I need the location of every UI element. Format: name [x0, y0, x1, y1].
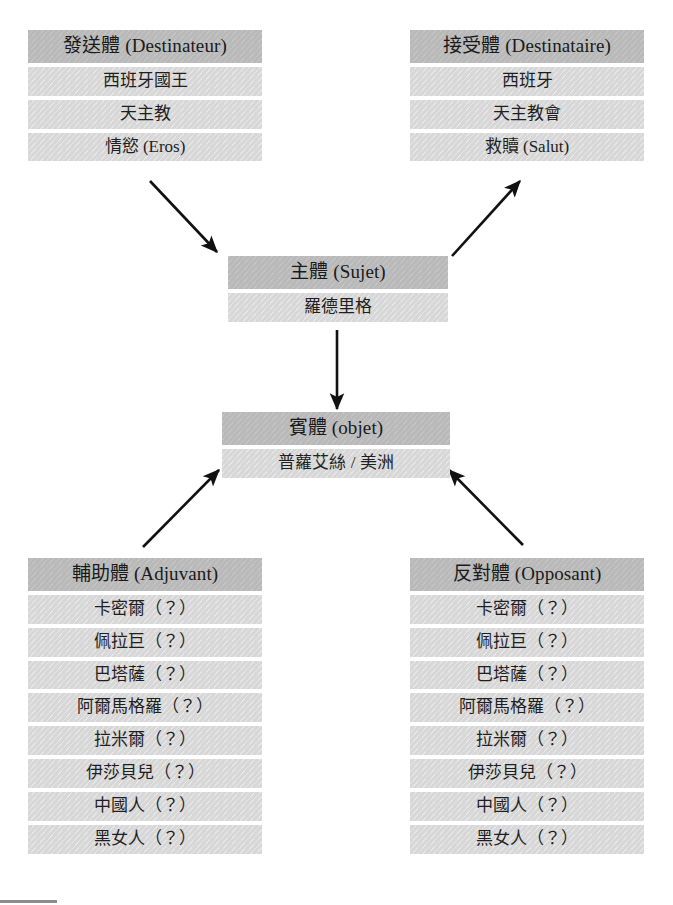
actantial-model-diagram: 發送體 (Destinateur) 西班牙國王 天主教 情慾 (Eros) 接受…: [0, 0, 673, 905]
actant-item: 佩拉巨（？）: [28, 628, 262, 657]
actant-item: 卡密爾（？）: [410, 595, 644, 624]
actant-box-sujet: 主體 (Sujet) 羅德里格: [228, 256, 448, 322]
footer-rule: [0, 900, 57, 903]
actant-box-destinataire: 接受體 (Destinataire) 西班牙 天主教會 救贖 (Salut): [410, 30, 644, 161]
actant-header-opposant: 反對體 (Opposant): [410, 558, 644, 591]
actant-item: 阿爾馬格羅（？）: [28, 693, 262, 722]
actant-item: 天主教: [28, 100, 262, 129]
actant-header-destinateur: 發送體 (Destinateur): [28, 30, 262, 63]
actant-item: 拉米爾（？）: [410, 726, 644, 755]
actant-box-objet: 賓體 (objet) 普蘿艾絲 / 美洲: [222, 412, 450, 478]
actant-header-destinataire: 接受體 (Destinataire): [410, 30, 644, 63]
actant-item: 普蘿艾絲 / 美洲: [222, 449, 450, 478]
actant-box-adjuvant: 輔助體 (Adjuvant) 卡密爾（？） 佩拉巨（？） 巴塔薩（？） 阿爾馬格…: [28, 558, 262, 854]
actant-item: 黑女人（？）: [28, 825, 262, 854]
actant-item: 阿爾馬格羅（？）: [410, 693, 644, 722]
actant-header-objet: 賓體 (objet): [222, 412, 450, 445]
actant-box-opposant: 反對體 (Opposant) 卡密爾（？） 佩拉巨（？） 巴塔薩（？） 阿爾馬格…: [410, 558, 644, 854]
actant-item: 伊莎貝兒（？）: [28, 759, 262, 788]
actant-item: 黑女人（？）: [410, 825, 644, 854]
arrow-opposant-to-objet: [449, 470, 523, 545]
actant-item: 卡密爾（？）: [28, 595, 262, 624]
arrow-destinateur-to-sujet: [150, 181, 217, 252]
actant-header-sujet: 主體 (Sujet): [228, 256, 448, 289]
actant-item: 羅德里格: [228, 293, 448, 322]
actant-item: 伊莎貝兒（？）: [410, 759, 644, 788]
actant-item: 巴塔薩（？）: [28, 661, 262, 690]
actant-header-adjuvant: 輔助體 (Adjuvant): [28, 558, 262, 591]
actant-item: 拉米爾（？）: [28, 726, 262, 755]
actant-item: 救贖 (Salut): [410, 133, 644, 162]
actant-item: 天主教會: [410, 100, 644, 129]
actant-item: 中國人（？）: [410, 792, 644, 821]
arrow-adjuvant-to-objet: [143, 470, 219, 547]
actant-item: 西班牙國王: [28, 67, 262, 96]
arrow-sujet-to-destinataire: [452, 181, 520, 256]
actant-box-destinateur: 發送體 (Destinateur) 西班牙國王 天主教 情慾 (Eros): [28, 30, 262, 161]
actant-item: 中國人（？）: [28, 792, 262, 821]
actant-item: 西班牙: [410, 67, 644, 96]
actant-item: 巴塔薩（？）: [410, 661, 644, 690]
actant-item: 情慾 (Eros): [28, 133, 262, 162]
actant-item: 佩拉巨（？）: [410, 628, 644, 657]
